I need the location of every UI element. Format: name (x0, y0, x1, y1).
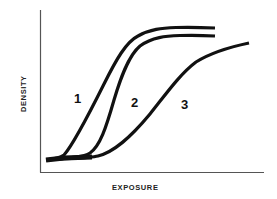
x-axis-label: EXPOSURE (112, 183, 158, 192)
characteristic-curves-chart: 1 2 3 EXPOSURE DENSITY (0, 0, 277, 199)
curve-1 (46, 27, 215, 160)
curve-label-3: 3 (181, 97, 188, 112)
curve-3 (52, 43, 249, 160)
curve-label-2: 2 (131, 95, 138, 110)
curve-label-1: 1 (74, 91, 81, 106)
y-axis-label: DENSITY (19, 75, 28, 112)
